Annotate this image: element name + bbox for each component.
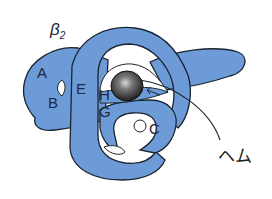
helix-label-e: E (76, 80, 86, 97)
helix-label-g: G (99, 103, 111, 120)
title-beta: β2 (49, 20, 66, 41)
helix-label-b: B (48, 94, 58, 111)
helix-label-h: H (99, 86, 110, 103)
helix-label-c: C (149, 120, 160, 137)
beta2-globin-diagram: β2 A B E H G C ヘム (0, 0, 272, 199)
c-gap (134, 120, 146, 132)
heme-group (111, 71, 143, 101)
g-gap (104, 146, 125, 155)
heme-label: ヘム (218, 146, 252, 166)
helix-label-a: A (37, 64, 47, 81)
